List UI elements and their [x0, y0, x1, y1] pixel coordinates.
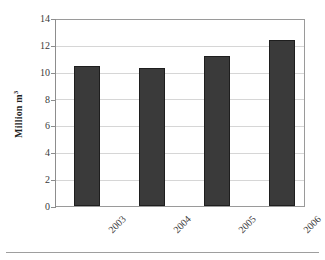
y-tick-label-0: 0: [45, 202, 50, 212]
y-tick-label-2: 2: [45, 175, 50, 185]
y-axis-title-superscript: 3: [12, 90, 20, 94]
bar-2003: [74, 66, 100, 206]
y-axis-line: [55, 19, 56, 208]
y-tick-mark-10: [51, 73, 55, 74]
y-tick-mark-0: [51, 207, 55, 208]
y-axis-title-base: Million m: [13, 94, 24, 138]
y-tick-label-10: 10: [40, 68, 50, 78]
gridline-12: [56, 46, 304, 47]
x-tick-label-2003: 2003: [107, 214, 128, 235]
x-tick-label-2004: 2004: [172, 214, 193, 235]
y-tick-mark-12: [51, 46, 55, 47]
y-tick-mark-6: [51, 126, 55, 127]
bottom-divider: [6, 252, 319, 253]
y-axis-title: Million m3: [9, 75, 27, 153]
y-tick-mark-8: [51, 100, 55, 101]
y-tick-mark-2: [51, 180, 55, 181]
y-tick-label-4: 4: [45, 148, 50, 158]
y-tick-label-8: 8: [45, 95, 50, 105]
y-tick-label-12: 12: [40, 41, 50, 51]
plot-area: [55, 19, 305, 207]
bar-2005: [204, 56, 230, 206]
y-tick-mark-14: [51, 19, 55, 20]
y-axis-tick-labels: 14 12 10 8 6 4 2 0: [30, 0, 50, 260]
y-tick-label-14: 14: [40, 14, 50, 24]
y-tick-label-6: 6: [45, 121, 50, 131]
bar-chart-figure: 14 12 10 8 6 4 2 0 Million m3 2003 2004 …: [0, 0, 325, 260]
y-tick-mark-4: [51, 153, 55, 154]
bar-2006: [269, 40, 295, 207]
y-axis-title-text: Million m3: [12, 90, 24, 137]
bar-2004: [139, 68, 165, 206]
x-tick-label-2005: 2005: [237, 214, 258, 235]
x-tick-label-2006: 2006: [302, 214, 323, 235]
